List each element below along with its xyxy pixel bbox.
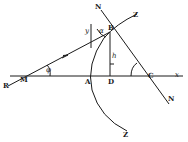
label-Z-bottom: Z — [123, 130, 128, 139]
label-y: y — [84, 27, 90, 35]
label-A: A — [84, 77, 91, 86]
label-N-bottom: N — [168, 94, 175, 103]
label-B: B — [108, 23, 114, 32]
label-R: R — [3, 81, 9, 90]
label-h: h — [112, 52, 117, 60]
label-phi: φ — [46, 66, 51, 74]
label-D: D — [108, 77, 114, 86]
angle-C-arc — [131, 63, 137, 76]
geometry-diagram: R M A D C x B N N Z Z y h α φ — [0, 0, 188, 142]
label-C: C — [148, 71, 154, 80]
label-N-top: N — [95, 2, 102, 11]
label-x: x — [175, 71, 179, 79]
label-Z-top: Z — [133, 10, 138, 19]
label-M: M — [20, 75, 28, 84]
label-alpha: α — [99, 27, 104, 35]
